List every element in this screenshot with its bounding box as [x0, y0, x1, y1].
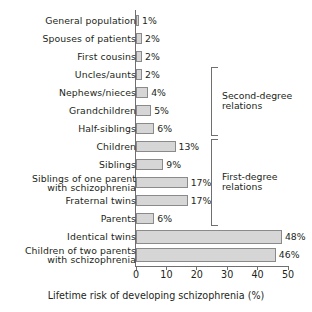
group-bracket-label: First-degree relations: [222, 172, 278, 193]
group-bracket-label: Second-degree relations: [222, 91, 292, 112]
x-axis-tick-label: 0: [133, 270, 139, 280]
bar: [136, 51, 142, 62]
bar-row: Children of two parents with schizophren…: [0, 246, 312, 264]
bar-category-label: Nephews/nieces: [4, 88, 136, 97]
bar-category-label: Identical twins: [4, 232, 136, 241]
bar: [136, 159, 163, 170]
bar: [136, 141, 176, 152]
bar: [136, 123, 154, 134]
bar-row: Half-siblings6%: [0, 120, 312, 138]
bar-row: Uncles/aunts2%: [0, 66, 312, 84]
bar-value-label: 9%: [166, 160, 181, 169]
bar-category-label: Fraternal twins: [4, 196, 136, 205]
bar-category-label: Half-siblings: [4, 124, 136, 133]
x-axis-tick-label: 10: [160, 270, 172, 280]
bar-row: Fraternal twins17%: [0, 192, 312, 210]
bar-value-label: 6%: [157, 214, 172, 223]
bar-category-label: General population: [4, 16, 136, 25]
bar-category-label: Siblings: [4, 160, 136, 169]
bar-category-label: Spouses of patients: [4, 34, 136, 43]
bar: [136, 105, 151, 116]
bar-row: Children13%: [0, 138, 312, 156]
group-bracket: [211, 139, 218, 226]
bar-category-label: Children: [4, 142, 136, 151]
bar-value-label: 17%: [191, 178, 212, 187]
bar: [136, 195, 188, 206]
bar-row: First cousins2%: [0, 48, 312, 66]
bar-value-label: 13%: [179, 142, 200, 151]
bar-value-label: 17%: [191, 196, 212, 205]
bar-row: Identical twins48%: [0, 228, 312, 246]
bar-row: General population1%: [0, 12, 312, 30]
bar-row: Parents6%: [0, 210, 312, 228]
bar-value-label: 2%: [145, 52, 160, 61]
bar: [136, 177, 188, 188]
bar-row: Spouses of patients2%: [0, 30, 312, 48]
x-axis-title: Lifetime risk of developing schizophreni…: [0, 290, 312, 301]
bar-value-label: 46%: [279, 250, 300, 259]
x-axis-tick-label: 20: [191, 270, 203, 280]
bar-value-label: 4%: [151, 88, 166, 97]
x-axis-tick-label: 30: [221, 270, 233, 280]
bar: [136, 213, 154, 224]
bar-value-label: 2%: [145, 70, 160, 79]
bar-category-label: First cousins: [4, 52, 136, 61]
bar-value-label: 6%: [157, 124, 172, 133]
group-bracket: [211, 67, 218, 136]
bar-value-label: 5%: [154, 106, 169, 115]
bar-value-label: 48%: [285, 232, 306, 241]
x-axis-tick-label: 50: [282, 270, 294, 280]
bar: [136, 230, 282, 244]
bar-value-label: 2%: [145, 34, 160, 43]
x-axis-tick-label: 40: [251, 270, 263, 280]
bar-category-label: Parents: [4, 214, 136, 223]
bar: [136, 15, 139, 26]
bar-category-label: Siblings of one parent with schizophreni…: [4, 174, 136, 193]
x-axis-line: [135, 266, 288, 267]
bar: [136, 248, 276, 262]
bar: [136, 69, 142, 80]
bar-category-label: Uncles/aunts: [4, 70, 136, 79]
bar-value-label: 1%: [142, 16, 157, 25]
bar-chart: General population1%Spouses of patients2…: [0, 0, 312, 312]
bar-category-label: Grandchildren: [4, 106, 136, 115]
bar-category-label: Children of two parents with schizophren…: [4, 246, 136, 265]
bar: [136, 33, 142, 44]
bar: [136, 87, 148, 98]
